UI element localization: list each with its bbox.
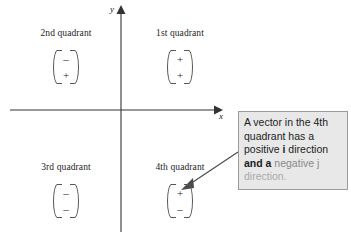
vector-j-sign-1st: + bbox=[177, 67, 183, 83]
callout-line-4-bold: and a bbox=[244, 157, 271, 169]
callout-line-3-suffix: direction bbox=[285, 143, 328, 155]
callout-line-2: quadrant has a bbox=[244, 130, 314, 142]
vector-i-sign-2nd: – bbox=[63, 51, 69, 67]
quadrant-group-1st: 1st quadrant + + bbox=[128, 28, 232, 84]
paren-right-icon bbox=[73, 184, 80, 218]
column-vector-3rd: – – bbox=[52, 184, 80, 218]
callout-line-3-prefix: positive bbox=[244, 143, 283, 155]
quadrant-group-2nd: 2nd quadrant – + bbox=[14, 28, 118, 84]
vector-i-sign-4th: + bbox=[177, 185, 183, 201]
quadrant-label-4th: 4th quadrant bbox=[156, 162, 205, 172]
vector-j-sign-3rd: – bbox=[63, 201, 69, 217]
paren-left-icon bbox=[52, 184, 59, 218]
paren-left-icon bbox=[52, 50, 59, 84]
callout-note: A vector in the 4th quadrant has a posit… bbox=[238, 111, 348, 190]
quadrant-label-1st: 1st quadrant bbox=[156, 28, 204, 38]
vector-i-sign-3rd: – bbox=[63, 185, 69, 201]
quadrant-label-3rd: 3rd quadrant bbox=[41, 162, 90, 172]
paren-right-icon bbox=[187, 50, 194, 84]
paren-right-icon bbox=[73, 50, 80, 84]
vector-i-sign-1st: + bbox=[177, 51, 183, 67]
callout-line-5-fade: direction. bbox=[244, 170, 287, 182]
vector-quadrant-diagram: y x 2nd quadrant – + 1st quadrant + + 3r… bbox=[0, 0, 351, 240]
quadrant-group-4th: 4th quadrant + – bbox=[128, 162, 232, 218]
y-axis-label: y bbox=[110, 5, 114, 14]
column-vector-2nd: – + bbox=[52, 50, 80, 84]
column-vector-4th: + – bbox=[166, 184, 194, 218]
paren-left-icon bbox=[166, 184, 173, 218]
paren-right-icon bbox=[187, 184, 194, 218]
callout-line-4-fade: negative j bbox=[271, 157, 319, 169]
column-vector-1st: + + bbox=[166, 50, 194, 84]
quadrant-label-2nd: 2nd quadrant bbox=[40, 28, 91, 38]
callout-line-1: A vector in the 4th bbox=[244, 116, 328, 128]
paren-left-icon bbox=[166, 50, 173, 84]
vector-j-sign-4th: – bbox=[177, 201, 183, 217]
x-axis-label: x bbox=[219, 112, 223, 121]
quadrant-group-3rd: 3rd quadrant – – bbox=[14, 162, 118, 218]
vector-j-sign-2nd: + bbox=[63, 67, 69, 83]
y-axis-arrowhead bbox=[117, 5, 126, 14]
